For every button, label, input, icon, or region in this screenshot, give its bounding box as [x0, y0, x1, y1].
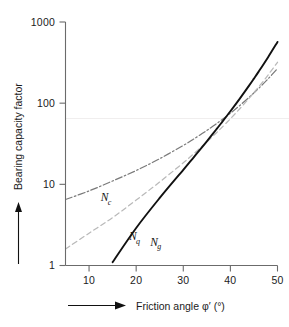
x-tick-label: 50	[271, 274, 283, 286]
y-tick-label: 10	[43, 178, 55, 190]
x-tick-label: 20	[130, 274, 142, 286]
x-tick-label: 40	[224, 274, 236, 286]
y-tick-label: 1	[49, 259, 55, 271]
curve-Nc	[66, 69, 278, 200]
chart-canvas: 1101001000 1020304050 NcNqNg Bearing cap…	[0, 0, 289, 327]
x-tick-label-group: 1020304050	[83, 274, 284, 286]
curve-group	[66, 42, 278, 262]
curve-label-subscript: c	[108, 198, 112, 207]
bearing-capacity-figure: 1101001000 1020304050 NcNqNg Bearing cap…	[0, 0, 289, 327]
curve-label-Nq: Nq	[128, 230, 140, 246]
curve-label-group: NcNqNg	[100, 191, 161, 251]
y-tick-label: 100	[37, 97, 55, 109]
x-tick-group	[89, 266, 277, 272]
x-axis-right-arrow-icon	[68, 302, 126, 310]
x-axis-title: Friction angle φ′ (°)	[136, 300, 225, 312]
y-tick-label: 1000	[31, 16, 55, 28]
curve-label-subscript: g	[157, 242, 161, 251]
x-tick-label: 30	[177, 274, 189, 286]
curve-label-Ng: Ng	[149, 236, 161, 252]
curve-label-Nc: Nc	[100, 191, 112, 207]
x-tick-label: 10	[83, 274, 95, 286]
y-axis-title: Bearing capacity factor	[12, 83, 24, 190]
curve-label-subscript: q	[136, 237, 140, 246]
y-tick-group	[60, 22, 66, 266]
axes-group	[66, 22, 278, 266]
y-tick-label-group: 1101001000	[31, 16, 55, 272]
y-axis-up-arrow-icon	[15, 202, 22, 264]
